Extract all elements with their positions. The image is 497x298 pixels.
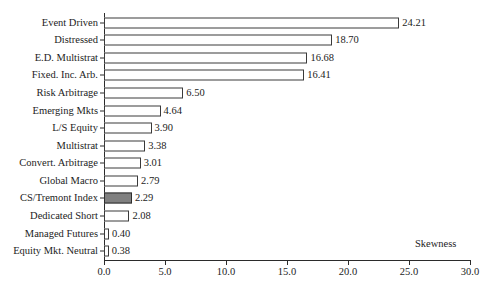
- bar: [104, 158, 141, 169]
- bar-row: Distressed18.70: [104, 32, 470, 50]
- bar-row: Fixed. Inc. Arb.16.41: [104, 67, 470, 85]
- bar-value-label: 16.41: [307, 70, 331, 81]
- category-label: Multistrat: [57, 141, 98, 152]
- category-label: Risk Arbitrage: [36, 88, 98, 99]
- x-axis-tick-label: 20.0: [339, 267, 357, 278]
- bar: [104, 35, 332, 46]
- category-label: Fixed. Inc. Arb.: [32, 70, 98, 81]
- category-label: Equity Mkt. Neutral: [13, 246, 98, 257]
- bar: [104, 70, 304, 81]
- bar-row: L/S Equity3.90: [104, 119, 470, 137]
- bar-value-label: 4.64: [164, 105, 182, 116]
- bar: [104, 17, 399, 28]
- x-axis-tick: [165, 260, 166, 265]
- bar-row: Global Macro2.79: [104, 172, 470, 190]
- bar-value-label: 3.01: [144, 158, 162, 169]
- bar-value-label: 3.38: [148, 141, 166, 152]
- x-axis-tick: [470, 260, 471, 265]
- bar: [104, 88, 183, 99]
- bar-row: Convert. Arbitrage3.01: [104, 155, 470, 173]
- category-label: CS/Tremont Index: [20, 193, 98, 204]
- x-axis-tick: [409, 260, 410, 265]
- x-axis-tick-label: 15.0: [278, 267, 296, 278]
- category-label: Managed Futures: [25, 228, 98, 239]
- bar-value-label: 0.40: [112, 228, 130, 239]
- category-label: Distressed: [54, 35, 98, 46]
- x-axis-tick: [348, 260, 349, 265]
- x-axis-tick-label: 10.0: [217, 267, 235, 278]
- category-label: E.D. Multistrat: [35, 53, 98, 64]
- bar: [104, 140, 145, 151]
- bar-value-label: 2.79: [141, 176, 159, 187]
- category-label: Emerging Mkts: [33, 105, 98, 116]
- x-axis-tick-label: 25.0: [400, 267, 418, 278]
- bar: [104, 52, 307, 63]
- bar-value-label: 0.38: [112, 246, 130, 257]
- bar-value-label: 18.70: [335, 35, 359, 46]
- bar: [104, 228, 109, 239]
- category-label: Convert. Arbitrage: [19, 158, 98, 169]
- bar: [104, 175, 138, 186]
- x-axis-tick-label: 0.0: [97, 267, 110, 278]
- bar: [104, 211, 129, 222]
- bar-row: Emerging Mkts4.64: [104, 102, 470, 120]
- category-label: Event Driven: [42, 18, 98, 29]
- bar-row: Multistrat3.38: [104, 137, 470, 155]
- x-axis-title: Skewness: [415, 239, 456, 250]
- plot-area: Event Driven24.21Distressed18.70E.D. Mul…: [104, 14, 470, 260]
- category-label: Dedicated Short: [30, 211, 98, 222]
- bar-row: CS/Tremont Index2.29: [104, 190, 470, 208]
- x-axis-tick: [104, 260, 105, 265]
- bar-row: Dedicated Short2.08: [104, 207, 470, 225]
- x-axis-tick-label: 30.0: [461, 267, 479, 278]
- bar-value-label: 6.50: [186, 88, 204, 99]
- skewness-bar-chart: Event Driven24.21Distressed18.70E.D. Mul…: [0, 0, 497, 298]
- x-axis-tick: [226, 260, 227, 265]
- bar: [104, 123, 152, 134]
- category-label: Global Macro: [39, 176, 98, 187]
- bar-row: E.D. Multistrat16.68: [104, 49, 470, 67]
- x-axis-tick-label: 5.0: [158, 267, 171, 278]
- bar-value-label: 3.90: [155, 123, 173, 134]
- bar-value-label: 24.21: [402, 18, 426, 29]
- bar-value-label: 2.08: [132, 211, 150, 222]
- x-axis-tick: [287, 260, 288, 265]
- bar-row: Event Driven24.21: [104, 14, 470, 32]
- bar-value-label: 16.68: [310, 53, 334, 64]
- bar: [104, 246, 109, 257]
- bar: [104, 105, 161, 116]
- category-label: L/S Equity: [52, 123, 98, 134]
- bar-value-label: 2.29: [135, 193, 153, 204]
- bar: [104, 193, 132, 204]
- bar-row: Risk Arbitrage6.50: [104, 84, 470, 102]
